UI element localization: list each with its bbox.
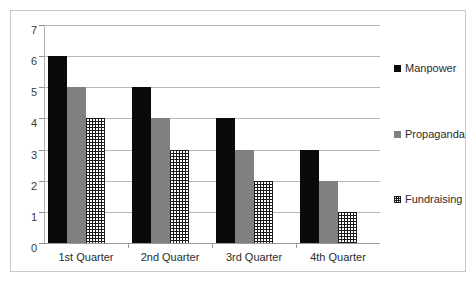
bar-group [216, 25, 273, 243]
legend-label: Propaganda [405, 129, 465, 140]
legend-item-fundraising[interactable]: Fundraising [394, 194, 462, 205]
bar-manpower-3 [216, 118, 235, 243]
bar-manpower-4 [300, 150, 319, 243]
x-tick [212, 243, 213, 248]
y-tick-label: 0 [15, 243, 37, 254]
legend-item-propaganda[interactable]: Propaganda [394, 129, 465, 140]
bar-fundraising-2 [170, 150, 189, 243]
legend-swatch-icon [394, 65, 401, 72]
bar-fundraising-4 [338, 212, 357, 243]
chart-frame: 01234567 1st Quarter2nd Quarter3rd Quart… [10, 10, 466, 272]
y-tick-label: 3 [15, 150, 37, 161]
legend-label: Manpower [405, 63, 456, 74]
bar-propaganda-2 [151, 118, 170, 243]
bar-propaganda-3 [235, 150, 254, 243]
x-tick [296, 243, 297, 248]
x-axis-label: 1st Quarter [58, 251, 113, 263]
x-axis-label: 4th Quarter [310, 251, 366, 263]
legend-swatch-icon [394, 196, 401, 203]
x-axis-label: 2nd Quarter [141, 251, 200, 263]
bar-manpower-1 [48, 56, 67, 243]
x-axis-label: 3rd Quarter [226, 251, 282, 263]
y-tick-label: 6 [15, 56, 37, 67]
legend-item-manpower[interactable]: Manpower [394, 63, 456, 74]
y-tick-label: 4 [15, 118, 37, 129]
bar-group [132, 25, 189, 243]
x-tick [128, 243, 129, 248]
y-tick-label: 7 [15, 25, 37, 36]
bar-propaganda-4 [319, 181, 338, 243]
y-tick-label: 2 [15, 181, 37, 192]
bar-group [300, 25, 357, 243]
legend-swatch-icon [394, 131, 401, 138]
bar-manpower-2 [132, 87, 151, 243]
y-tick-label: 1 [15, 212, 37, 223]
bar-fundraising-3 [254, 181, 273, 243]
bar-fundraising-1 [86, 118, 105, 243]
plot-area [44, 25, 380, 243]
bar-propaganda-1 [67, 87, 86, 243]
y-tick-label: 5 [15, 87, 37, 98]
legend-label: Fundraising [405, 194, 462, 205]
bar-group [48, 25, 105, 243]
